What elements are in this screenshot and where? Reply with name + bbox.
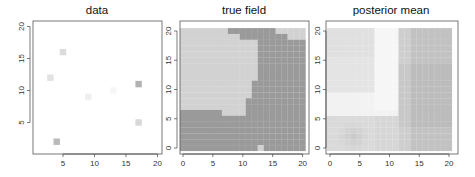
data-point (54, 139, 60, 145)
heatmap-cells (180, 28, 306, 151)
x-tick-label: 20 (153, 159, 162, 168)
y-tick-label: 10 (313, 85, 322, 94)
y-tick-label: 20 (17, 22, 26, 31)
figure: data 51015205101520 true field 051015200… (0, 0, 475, 177)
data-point (110, 87, 116, 93)
y-tick-label: 15 (313, 55, 322, 64)
x-tick-label: 0 (328, 159, 333, 168)
data-point (85, 94, 91, 100)
y-tick-label: 15 (17, 54, 26, 63)
data-point (135, 81, 141, 87)
heatmap-cells (327, 28, 452, 151)
y-tick-label: 20 (313, 26, 322, 35)
x-tick-label: 10 (385, 159, 394, 168)
x-tick-label: 20 (298, 159, 307, 168)
y-tick-label: 5 (164, 116, 173, 121)
panel-title-data: data (86, 4, 109, 16)
y-tick-label: 15 (164, 55, 173, 64)
x-tick-label: 20 (445, 159, 454, 168)
y-tick-label: 20 (164, 26, 173, 35)
panel-title-true-field: true field (222, 4, 266, 16)
x-tick-label: 5 (211, 159, 216, 168)
panel-true-field: true field 0510152005101520 (164, 4, 309, 168)
panel-data: data 51015205101520 (17, 4, 162, 168)
x-tick-label: 5 (61, 159, 66, 168)
x-tick-label: 15 (415, 159, 424, 168)
x-tick-label: 5 (358, 159, 363, 168)
data-point (47, 75, 53, 81)
y-tick-label: 5 (17, 120, 26, 125)
data-point (60, 49, 66, 55)
panel-frame (33, 21, 162, 154)
y-tick-label: 0 (164, 145, 173, 150)
x-tick-label: 10 (238, 159, 247, 168)
x-tick-label: 10 (90, 159, 99, 168)
panel-posterior-mean: posterior mean 0510152005101520 (313, 4, 458, 168)
y-tick-label: 10 (17, 86, 26, 95)
x-tick-label: 15 (268, 159, 277, 168)
data-points (47, 49, 142, 145)
data-point (135, 119, 141, 125)
x-tick-label: 0 (181, 159, 186, 168)
y-tick-label: 10 (164, 85, 173, 94)
y-tick-label: 5 (313, 116, 322, 121)
x-tick-label: 15 (122, 159, 131, 168)
panel-title-posterior-mean: posterior mean (353, 4, 430, 16)
y-tick-label: 0 (313, 145, 322, 150)
